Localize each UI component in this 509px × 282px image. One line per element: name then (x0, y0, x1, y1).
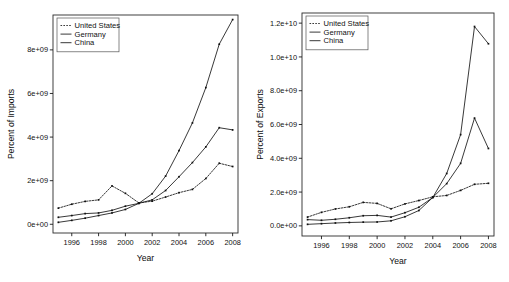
series-point-germany (362, 215, 364, 217)
y-tick-label: 1.0e+10 (270, 53, 297, 62)
series-point-china (232, 19, 234, 21)
series-point-united-states (376, 203, 378, 205)
y-tick-label: 2e+09 (27, 176, 48, 185)
x-tick-label: 2008 (480, 241, 496, 250)
y-tick-label: 0e+00 (27, 220, 48, 229)
x-tick-label: 2000 (117, 238, 133, 247)
series-point-germany (165, 190, 167, 192)
series-point-germany (335, 218, 337, 220)
x-tick-label: 2008 (224, 238, 240, 247)
series-point-germany (71, 215, 73, 217)
series-point-china (418, 210, 420, 212)
series-point-united-states (205, 178, 207, 180)
series-point-china (362, 221, 364, 223)
y-tick-label: 1.2e+10 (270, 19, 297, 28)
series-line-germany (58, 128, 232, 218)
series-point-germany (474, 117, 476, 119)
x-tick-label: 1998 (90, 238, 106, 247)
x-tick-label: 2000 (369, 241, 385, 250)
chart-svg: 0e+002e+094e+096e+098e+09199619982000200… (0, 0, 255, 282)
series-point-germany (84, 213, 86, 215)
series-point-united-states (390, 208, 392, 210)
series-point-united-states (348, 206, 350, 208)
series-point-germany (218, 127, 220, 129)
series-point-germany (376, 215, 378, 217)
series-point-united-states (404, 203, 406, 205)
series-point-united-states (362, 202, 364, 204)
series-point-china (335, 222, 337, 224)
y-tick-label: 4e+09 (27, 133, 48, 142)
x-axis-title: Year (137, 253, 155, 263)
y-tick-label: 0.0e+00 (270, 221, 297, 230)
series-point-china (192, 122, 194, 124)
series-point-united-states (474, 183, 476, 185)
series-point-germany (418, 206, 420, 208)
series-point-china (390, 220, 392, 222)
series-point-china (460, 134, 462, 136)
series-point-china (151, 193, 153, 195)
series-point-united-states (418, 200, 420, 202)
series-point-china (307, 223, 309, 225)
x-tick-label: 2004 (425, 241, 441, 250)
series-point-germany (205, 146, 207, 148)
series-point-united-states (178, 192, 180, 194)
series-point-china (98, 215, 100, 217)
series-point-germany (446, 183, 448, 185)
series-point-germany (151, 199, 153, 201)
series-point-united-states (98, 199, 100, 201)
series-point-germany (348, 217, 350, 219)
x-tick-label: 1998 (341, 241, 357, 250)
series-line-germany (308, 118, 489, 220)
x-axis-title: Year (389, 256, 407, 266)
series-point-germany (460, 163, 462, 165)
x-tick-label: 1996 (313, 241, 329, 250)
series-point-germany (98, 212, 100, 214)
series-point-china (218, 43, 220, 45)
series-point-germany (125, 205, 127, 207)
series-point-united-states (335, 208, 337, 210)
series-point-united-states (192, 189, 194, 191)
series-point-china (404, 216, 406, 218)
series-point-united-states (218, 162, 220, 164)
series-point-united-states (125, 192, 127, 194)
series-point-china (205, 87, 207, 89)
series-point-china (348, 222, 350, 224)
series-point-china (125, 209, 127, 211)
x-tick-label: 1996 (64, 238, 80, 247)
series-point-china (71, 220, 73, 222)
series-point-germany (178, 176, 180, 178)
series-point-china (488, 43, 490, 45)
x-tick-label: 2006 (198, 238, 214, 247)
series-point-china (432, 197, 434, 199)
series-point-united-states (321, 212, 323, 214)
series-point-germany (321, 219, 323, 221)
series-point-germany (390, 216, 392, 218)
series-point-china (111, 212, 113, 214)
y-tick-label: 8.0e+09 (270, 86, 297, 95)
two-panel-line-chart-figure: 0e+002e+094e+096e+098e+09199619982000200… (0, 0, 509, 282)
series-point-united-states (460, 190, 462, 192)
series-point-germany (232, 129, 234, 131)
series-point-germany (307, 219, 309, 221)
series-point-united-states (307, 216, 309, 218)
y-tick-label: 8e+09 (27, 45, 48, 54)
series-point-china (138, 203, 140, 205)
chart-panel-imports: 0e+002e+094e+096e+098e+09199619982000200… (0, 0, 255, 282)
series-point-united-states (165, 196, 167, 198)
x-tick-label: 2002 (397, 241, 413, 250)
y-tick-label: 6e+09 (27, 89, 48, 98)
series-point-germany (192, 162, 194, 164)
series-point-china (165, 175, 167, 177)
y-tick-label: 6.0e+09 (270, 120, 297, 129)
legend-label-china: China (324, 36, 345, 45)
series-point-united-states (232, 166, 234, 168)
x-tick-label: 2006 (452, 241, 468, 250)
series-point-germany (58, 216, 60, 218)
series-point-germany (111, 209, 113, 211)
series-line-united-states (308, 183, 489, 217)
y-axis-title: Percent of Exports (255, 89, 265, 160)
y-tick-label: 2.0e+09 (270, 188, 297, 197)
series-point-china (474, 26, 476, 28)
series-point-united-states (58, 207, 60, 209)
series-point-united-states (488, 182, 490, 184)
